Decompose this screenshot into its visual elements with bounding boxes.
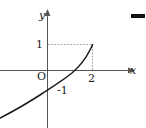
y-tick-label-one: 1 — [36, 39, 43, 50]
y-axis-arrowhead — [45, 9, 51, 16]
graph-canvas — [0, 0, 146, 128]
y-tick-label-negative-one: -1 — [57, 85, 68, 96]
y-axis-label: y — [39, 10, 45, 21]
x-tick-label-two: 2 — [88, 73, 95, 84]
origin-label: O — [37, 71, 46, 82]
plotted-curve — [0, 45, 93, 119]
legend-dash-marker — [131, 14, 145, 18]
x-axis-label: x — [130, 65, 136, 76]
x-axis — [0, 68, 135, 74]
math-figure: y x O 1 2 -1 — [0, 0, 146, 128]
y-axis — [45, 9, 51, 128]
